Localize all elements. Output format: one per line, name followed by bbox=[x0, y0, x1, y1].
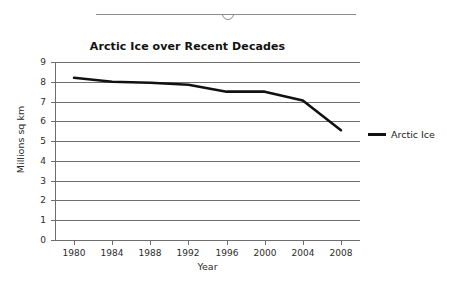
legend-label-arctic-ice: Arctic Ice bbox=[391, 129, 435, 140]
x-tick-mark-1980 bbox=[74, 241, 75, 245]
chart-figure: Arctic Ice over Recent Decades Millions … bbox=[0, 30, 455, 287]
y-tick-label-7: 7 bbox=[28, 98, 46, 107]
x-tick-mark-2008 bbox=[341, 241, 342, 245]
x-tick-mark-2000 bbox=[265, 241, 266, 245]
legend-swatch-arctic-ice bbox=[368, 133, 386, 136]
plot-area bbox=[55, 62, 360, 240]
series-line-arctic-ice bbox=[74, 78, 341, 130]
x-tick-label-1984: 1984 bbox=[92, 248, 132, 258]
x-tick-label-1980: 1980 bbox=[54, 248, 94, 258]
y-tick-label-5: 5 bbox=[28, 137, 46, 146]
y-tick-label-2: 2 bbox=[28, 196, 46, 205]
x-tick-label-2004: 2004 bbox=[283, 248, 323, 258]
x-tick-label-1996: 1996 bbox=[207, 248, 247, 258]
slider-track-overlay bbox=[96, 14, 356, 15]
slider-strip bbox=[0, 0, 455, 30]
chart-legend: Arctic Ice bbox=[368, 129, 435, 140]
x-tick-mark-2004 bbox=[303, 241, 304, 245]
x-tick-label-2000: 2000 bbox=[245, 248, 285, 258]
series-line-chart bbox=[55, 62, 360, 240]
y-tick-label-6: 6 bbox=[28, 117, 46, 126]
y-axis-title: Millions sq km bbox=[15, 85, 26, 195]
slider-thumb-top-mask bbox=[220, 0, 237, 15]
x-tick-label-1992: 1992 bbox=[168, 248, 208, 258]
x-tick-mark-1984 bbox=[112, 241, 113, 245]
x-tick-mark-1992 bbox=[188, 241, 189, 245]
y-tick-label-4: 4 bbox=[28, 157, 46, 166]
y-tick-label-1: 1 bbox=[28, 216, 46, 225]
x-tick-mark-1996 bbox=[227, 241, 228, 245]
x-tick-label-2008: 2008 bbox=[321, 248, 361, 258]
x-tick-label-1988: 1988 bbox=[130, 248, 170, 258]
y-tick-label-9: 9 bbox=[28, 58, 46, 67]
y-tick-label-8: 8 bbox=[28, 78, 46, 87]
gridline-y-0 bbox=[55, 240, 360, 241]
x-axis-title: Year bbox=[55, 261, 360, 272]
x-tick-mark-1988 bbox=[150, 241, 151, 245]
y-tick-label-3: 3 bbox=[28, 177, 46, 186]
y-tick-label-0: 0 bbox=[28, 236, 46, 245]
chart-title: Arctic Ice over Recent Decades bbox=[0, 40, 375, 53]
